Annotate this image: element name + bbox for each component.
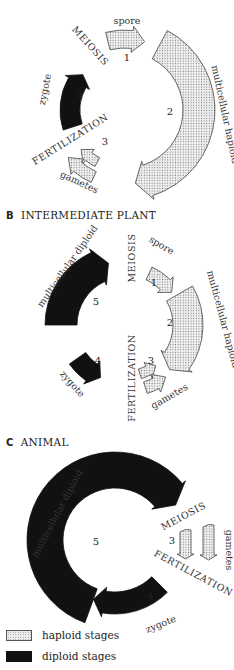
panel-b-letter: B — [6, 210, 14, 221]
panel-c-title: CANIMAL — [6, 436, 69, 448]
spore-label: spore — [114, 15, 141, 26]
stage-spore-arrow — [106, 26, 145, 52]
legend-haploid-label: haploid stages — [42, 629, 119, 641]
stage-gamete-arrow — [177, 529, 194, 559]
stage-3-number: 3 — [169, 535, 175, 546]
stage-gamete-arrow — [200, 524, 217, 560]
stage-multicellular-haploid-arrow — [161, 286, 203, 372]
stage-4-number: 4 — [95, 355, 101, 366]
stage-4-number: 4 — [77, 90, 83, 101]
stage-3-number: 3 — [102, 136, 108, 147]
gametes-label: gametes — [224, 530, 234, 571]
stage-2-number: 2 — [167, 106, 173, 117]
panel-c-letter: C — [6, 437, 14, 448]
stage-5-number: 5 — [93, 536, 99, 547]
meiosis-label: MEIOSIS — [70, 24, 111, 68]
stage-zygote-arrow — [93, 577, 167, 617]
stage-gamete-arrow — [144, 374, 166, 393]
stage-multicellular-haploid-arrow — [135, 31, 215, 200]
legend-diploid-label: diploid stages — [42, 650, 116, 662]
legend-haploid: haploid stages — [6, 629, 119, 641]
panel-c-title-text: ANIMAL — [21, 436, 69, 448]
multicellular-haploid-label: multicellular haploid — [205, 269, 234, 369]
panel-b-title: BINTERMEDIATE PLANT — [6, 209, 156, 221]
spore-label: spore — [147, 233, 176, 256]
stage-3-number: 3 — [148, 355, 154, 366]
legend-diploid: diploid stages — [6, 650, 116, 662]
stage-1-number: 1 — [151, 277, 157, 288]
zygote-label: zygote — [36, 72, 53, 106]
life-cycle-diagrams: spore12multicellular haploid3gametes4zyg… — [0, 0, 234, 670]
stage-1-number: 1 — [124, 52, 130, 63]
stage-2-number: 2 — [167, 317, 173, 328]
stage-zygote-arrow — [60, 75, 89, 130]
meiosis-label: MEIOSIS — [126, 233, 137, 282]
stage-5-number: 5 — [93, 296, 99, 307]
diploid-swatch-icon — [6, 651, 32, 662]
zygote-label: zygote — [144, 613, 178, 635]
panel-b-title-text: INTERMEDIATE PLANT — [21, 209, 156, 221]
fertilization-label: FERTILIZATION — [126, 334, 137, 422]
haploid-swatch-icon — [6, 630, 32, 641]
stage-4-number: 4 — [147, 590, 153, 601]
